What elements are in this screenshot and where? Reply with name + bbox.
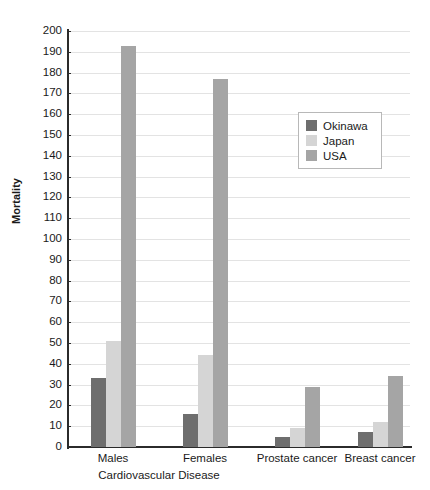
gridline bbox=[68, 177, 410, 178]
bar-japan-females bbox=[198, 355, 213, 447]
bar-usa-breast-cancer bbox=[388, 376, 403, 447]
y-tick-mark bbox=[67, 281, 71, 282]
y-tick-label: 140 bbox=[26, 150, 62, 161]
y-tick-label: 60 bbox=[26, 316, 62, 327]
y-tick-mark bbox=[67, 135, 71, 136]
bar-japan-prostate-cancer bbox=[290, 428, 305, 447]
gridline bbox=[68, 197, 410, 198]
legend-swatch-okinawa bbox=[306, 120, 317, 131]
legend-item-usa: USA bbox=[306, 148, 375, 163]
y-tick-label: 80 bbox=[26, 275, 62, 286]
y-tick-mark bbox=[67, 177, 71, 178]
y-tick-label: 180 bbox=[26, 67, 62, 78]
y-tick-label: 10 bbox=[26, 420, 62, 431]
y-tick-mark bbox=[67, 239, 71, 240]
y-tick-label: 50 bbox=[26, 337, 62, 348]
legend-label-okinawa: Okinawa bbox=[323, 120, 368, 132]
y-tick-label: 130 bbox=[26, 171, 62, 182]
y-tick-mark bbox=[67, 343, 71, 344]
gridline bbox=[68, 218, 410, 219]
legend-swatch-japan bbox=[306, 135, 317, 146]
y-tick-mark bbox=[67, 301, 71, 302]
mortality-bar-chart: Mortality 010203040506070809010011012013… bbox=[0, 0, 430, 490]
y-tick-mark bbox=[67, 385, 71, 386]
bar-usa-prostate-cancer bbox=[305, 387, 320, 447]
y-tick-mark bbox=[67, 447, 71, 448]
y-axis-title: Mortality bbox=[10, 156, 22, 246]
y-tick-label: 70 bbox=[26, 295, 62, 306]
y-tick-label: 30 bbox=[26, 379, 62, 390]
y-tick-label: 170 bbox=[26, 87, 62, 98]
gridline bbox=[68, 322, 410, 323]
bar-usa-males bbox=[121, 46, 136, 447]
y-tick-mark bbox=[67, 73, 71, 74]
bar-okinawa-breast-cancer bbox=[358, 432, 373, 447]
y-tick-mark bbox=[67, 93, 71, 94]
y-tick-mark bbox=[67, 197, 71, 198]
y-tick-label: 120 bbox=[26, 191, 62, 202]
y-tick-mark bbox=[67, 405, 71, 406]
y-tick-label: 100 bbox=[26, 233, 62, 244]
x-axis-label-breast-cancer: Breast cancer bbox=[320, 452, 430, 464]
y-tick-mark bbox=[67, 31, 71, 32]
gridline bbox=[68, 31, 410, 32]
y-tick-mark bbox=[67, 52, 71, 53]
y-tick-label: 200 bbox=[26, 25, 62, 36]
legend-label-japan: Japan bbox=[323, 135, 354, 147]
y-tick-label: 0 bbox=[26, 441, 62, 452]
bar-okinawa-females bbox=[183, 414, 198, 447]
y-tick-mark bbox=[67, 322, 71, 323]
legend-label-usa: USA bbox=[323, 150, 347, 162]
y-tick-mark bbox=[67, 364, 71, 365]
y-tick-mark bbox=[67, 114, 71, 115]
y-tick-label: 40 bbox=[26, 358, 62, 369]
gridline bbox=[68, 73, 410, 74]
y-tick-label: 90 bbox=[26, 254, 62, 265]
gridline bbox=[68, 281, 410, 282]
gridline bbox=[68, 301, 410, 302]
y-tick-mark bbox=[67, 218, 71, 219]
y-tick-mark bbox=[67, 156, 71, 157]
legend-item-okinawa: Okinawa bbox=[306, 118, 375, 133]
legend-swatch-usa bbox=[306, 150, 317, 161]
y-tick-mark bbox=[67, 426, 71, 427]
bar-japan-males bbox=[106, 341, 121, 447]
chart-legend: OkinawaJapanUSA bbox=[298, 112, 382, 169]
bar-japan-breast-cancer bbox=[373, 422, 388, 447]
bar-usa-females bbox=[213, 79, 228, 447]
gridline bbox=[68, 239, 410, 240]
y-tick-label: 20 bbox=[26, 399, 62, 410]
legend-item-japan: Japan bbox=[306, 133, 375, 148]
gridline bbox=[68, 93, 410, 94]
gridline bbox=[68, 260, 410, 261]
y-tick-label: 190 bbox=[26, 46, 62, 57]
y-tick-label: 110 bbox=[26, 212, 62, 223]
y-tick-mark bbox=[67, 260, 71, 261]
x-axis-group-label-cardiovascular-disease: Cardiovascular Disease bbox=[69, 469, 249, 481]
y-tick-label: 160 bbox=[26, 108, 62, 119]
gridline bbox=[68, 52, 410, 53]
bar-okinawa-males bbox=[91, 378, 106, 447]
y-tick-label: 150 bbox=[26, 129, 62, 140]
bar-okinawa-prostate-cancer bbox=[275, 437, 290, 447]
